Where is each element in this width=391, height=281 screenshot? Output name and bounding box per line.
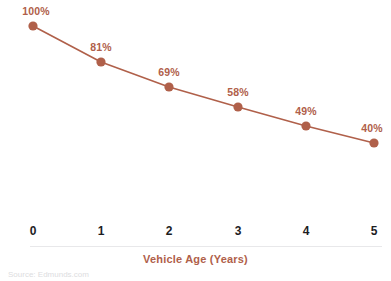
data-label-year-3: 58% <box>227 86 248 98</box>
x-axis-line <box>30 246 382 247</box>
data-label-year-4: 49% <box>295 105 316 117</box>
data-label-year-2: 69% <box>158 66 179 78</box>
x-tick-0: 0 <box>30 224 37 238</box>
x-tick-3: 3 <box>235 224 242 238</box>
plot-area: 100% 81% 69% 58% 49% 40% <box>0 0 391 250</box>
source-note: Source: Edmunds.com <box>8 270 89 279</box>
data-point-year-5[interactable] <box>369 138 378 147</box>
x-tick-4: 4 <box>303 224 310 238</box>
line-series-svg <box>0 0 391 250</box>
value-retention-line <box>33 26 374 143</box>
data-label-year-1: 81% <box>90 41 111 53</box>
data-label-year-5: 40% <box>361 122 382 134</box>
x-axis-title: Vehicle Age (Years) <box>0 253 391 265</box>
x-tick-1: 1 <box>98 224 105 238</box>
data-point-year-4[interactable] <box>301 121 310 130</box>
x-tick-5: 5 <box>371 224 378 238</box>
x-tick-2: 2 <box>166 224 173 238</box>
vehicle-depreciation-chart: 100% 81% 69% 58% 49% 40% 0 1 2 3 4 5 Veh… <box>0 0 391 281</box>
data-point-year-3[interactable] <box>233 102 242 111</box>
data-label-year-0: 100% <box>22 5 49 17</box>
data-point-year-0[interactable] <box>28 21 37 30</box>
data-point-year-1[interactable] <box>96 57 105 66</box>
data-point-year-2[interactable] <box>164 82 173 91</box>
